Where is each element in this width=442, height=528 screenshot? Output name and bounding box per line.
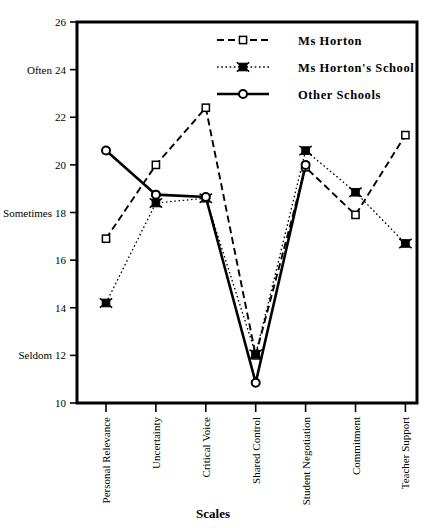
marker-open-circle — [202, 193, 210, 201]
y-tick-label: 24 — [55, 64, 67, 76]
marker-open-circle — [152, 191, 160, 199]
y-tick-label: 20 — [55, 159, 67, 171]
x-category-label: Teacher Support — [399, 417, 411, 489]
marker-open-circle — [302, 161, 310, 169]
series-line-1 — [106, 151, 405, 355]
x-category-label: Critical Voice — [200, 417, 212, 478]
x-category-label: Student Negotiation — [300, 417, 312, 506]
y-tick-label: 18 — [55, 207, 67, 219]
x-category-label: Commitment — [350, 417, 362, 475]
y-tick-label: 22 — [55, 111, 66, 123]
marker-open-circle — [102, 147, 110, 155]
chart-container: 101214161820222426 OftenSometimesSeldom … — [0, 0, 442, 528]
x-axis-title: Scales — [196, 506, 230, 521]
series-line-0 — [106, 108, 405, 356]
marker-open-circle — [239, 90, 247, 98]
y-anchor-label: Sometimes — [3, 207, 52, 219]
y-tick-label: 26 — [55, 16, 67, 28]
legend-label-1: Ms Horton's School — [298, 61, 414, 75]
y-axis-tick-labels: 101214161820222426 — [55, 16, 67, 409]
legend-label-2: Other Schools — [298, 88, 381, 102]
x-axis-category-labels: Personal RelevanceUncertaintyCritical Vo… — [100, 417, 411, 506]
marker-open-square — [152, 161, 159, 168]
marker-open-square — [402, 132, 409, 139]
series-line-2 — [106, 151, 306, 383]
marker-open-square — [352, 211, 359, 218]
x-category-label: Shared Control — [250, 417, 262, 484]
y-tick-label: 14 — [55, 302, 67, 314]
legend-label-0: Ms Horton — [298, 34, 362, 48]
x-category-label: Uncertainty — [150, 417, 162, 469]
y-anchor-label: Often — [27, 64, 53, 76]
y-axis-anchor-labels: OftenSometimesSeldom — [3, 64, 52, 362]
y-tick-label: 12 — [55, 349, 66, 361]
marker-open-square — [239, 36, 246, 43]
line-chart-plot: 101214161820222426 OftenSometimesSeldom … — [0, 0, 442, 528]
x-category-label: Personal Relevance — [100, 417, 112, 504]
marker-open-circle — [252, 379, 260, 387]
y-tick-label: 10 — [55, 397, 67, 409]
y-tick-label: 16 — [55, 254, 67, 266]
y-anchor-label: Seldom — [18, 349, 52, 361]
series-markers-group — [100, 104, 412, 387]
series-lines-group — [106, 108, 405, 383]
marker-open-square — [102, 235, 109, 242]
legend: Ms HortonMs Horton's SchoolOther Schools — [217, 34, 414, 102]
marker-open-square — [202, 104, 209, 111]
